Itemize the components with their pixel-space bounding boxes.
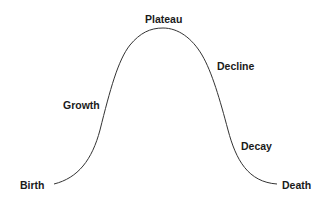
stage-label-decline: Decline xyxy=(217,61,254,72)
stage-label-birth: Birth xyxy=(20,180,45,191)
lifecycle-diagram: Birth Growth Plateau Decline Decay Death xyxy=(0,0,330,202)
stage-label-death: Death xyxy=(282,180,311,191)
lifecycle-curve xyxy=(0,0,330,202)
stage-label-plateau: Plateau xyxy=(145,14,182,25)
stage-label-decay: Decay xyxy=(241,141,272,152)
stage-label-growth: Growth xyxy=(63,100,100,111)
